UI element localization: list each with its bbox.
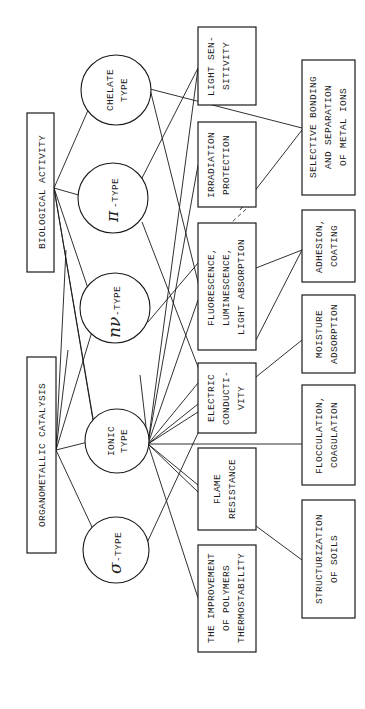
box-biological-activity: BIOLOGICAL ACTIVITY bbox=[27, 113, 54, 272]
circle-chelate-type: CHELATE TYPE bbox=[81, 55, 151, 125]
pi-symbol: π bbox=[102, 210, 122, 223]
fluorescence-line3: LIGHT ABSORPTION bbox=[236, 239, 247, 335]
thermostability-line2: OF POLYMERS bbox=[221, 565, 232, 631]
box-fluorescence: FLUORESCENCE, LUMINESCENCE, LIGHT ABSORP… bbox=[198, 223, 256, 350]
ionic-label-line2: TYPE bbox=[119, 429, 130, 453]
n-nu-type-label: -TYPE bbox=[112, 286, 123, 316]
irradiation-line1: IRRADIATION bbox=[206, 132, 217, 198]
chelate-label-line1: CHELATE bbox=[105, 69, 116, 111]
selective-line2: AND SEPARATION bbox=[323, 85, 334, 169]
box-selective-bonding: SELECTIVE BONDING AND SEPARATION OF META… bbox=[302, 60, 355, 195]
fluorescence-line1: FLUORESCENCE, bbox=[206, 248, 217, 326]
circle-n-nu-type: nν -TYPE bbox=[80, 273, 150, 343]
selective-line1: SELECTIVE BONDING bbox=[308, 76, 319, 178]
light-sensitivity-line2: SITIVITY bbox=[221, 42, 232, 90]
pi-type-label: -TYPE bbox=[110, 178, 121, 208]
electric-line1: ELECTRIC bbox=[206, 374, 217, 422]
label-organometallic-catalysis: ORGANOMETALLIC CATALYSIS bbox=[37, 383, 48, 527]
box-light-sensitivity: LIGHT SEN- SITIVITY bbox=[198, 27, 256, 105]
box-electric-conductivity: ELECTRIC CONDUCTI- VITY bbox=[198, 363, 256, 433]
thermostability-line1: THE IMPROVEMENT bbox=[206, 553, 217, 643]
flocculation-line1: FLOCCULATION, bbox=[314, 396, 325, 474]
flame-line2: RESISTANCE bbox=[227, 459, 238, 519]
n-nu-symbol: nν bbox=[104, 317, 124, 338]
thermostability-line3: THERMOSTABILITY bbox=[236, 553, 247, 643]
circle-ionic-type: IONIC TYPE bbox=[85, 409, 149, 473]
structurization-line2: OF SOILS bbox=[329, 535, 340, 583]
box-adhesion-coating: ADHESION, COATING bbox=[302, 210, 355, 282]
ionic-label-line1: IONIC bbox=[106, 426, 117, 456]
irradiation-line2: PROTECTION bbox=[221, 135, 232, 195]
structurization-line1: STRUCTURIZATION bbox=[314, 514, 325, 604]
light-sensitivity-line1: LIGHT SEN- bbox=[206, 36, 217, 96]
sigma-symbol: σ bbox=[105, 562, 125, 574]
box-irradiation-protection: IRRADIATION PROTECTION bbox=[198, 122, 256, 207]
box-flocculation: FLOCCULATION, COAGULATION bbox=[302, 385, 355, 485]
circle-sigma-type: σ -TYPE bbox=[83, 517, 149, 583]
flocculation-line2: COAGULATION bbox=[329, 402, 340, 468]
box-structurization: STRUCTURIZATION OF SOILS bbox=[302, 500, 355, 618]
box-flame-resistance: FLAME RESISTANCE bbox=[198, 448, 256, 530]
selective-line3: OF METAL IONS bbox=[338, 88, 349, 166]
box-thermostability: THE IMPROVEMENT OF POLYMERS THERMOSTABIL… bbox=[198, 545, 256, 652]
label-biological-activity: BIOLOGICAL ACTIVITY bbox=[37, 135, 48, 249]
moisture-line2: ADSORPTION bbox=[329, 304, 340, 364]
flame-line1: FLAME bbox=[212, 474, 223, 504]
electric-line2: CONDUCTI- bbox=[221, 371, 232, 425]
fluorescence-line2: LUMINESCENCE, bbox=[221, 248, 232, 326]
diagram-canvas: BIOLOGICAL ACTIVITY ORGANOMETALLIC CATAL… bbox=[0, 0, 365, 709]
circle-pi-type: π -TYPE bbox=[78, 163, 148, 233]
adhesion-line2: COATING bbox=[329, 225, 340, 267]
adhesion-line1: ADHESION, bbox=[314, 219, 325, 273]
sigma-type-label: -TYPE bbox=[113, 532, 124, 562]
moisture-line1: MOISTURE bbox=[314, 310, 325, 358]
box-moisture-adsorption: MOISTURE ADSORPTION bbox=[302, 295, 355, 373]
chelate-label-line2: TYPE bbox=[119, 78, 130, 102]
box-organometallic-catalysis: ORGANOMETALLIC CATALYSIS bbox=[27, 357, 56, 553]
electric-line3: VITY bbox=[236, 386, 247, 410]
